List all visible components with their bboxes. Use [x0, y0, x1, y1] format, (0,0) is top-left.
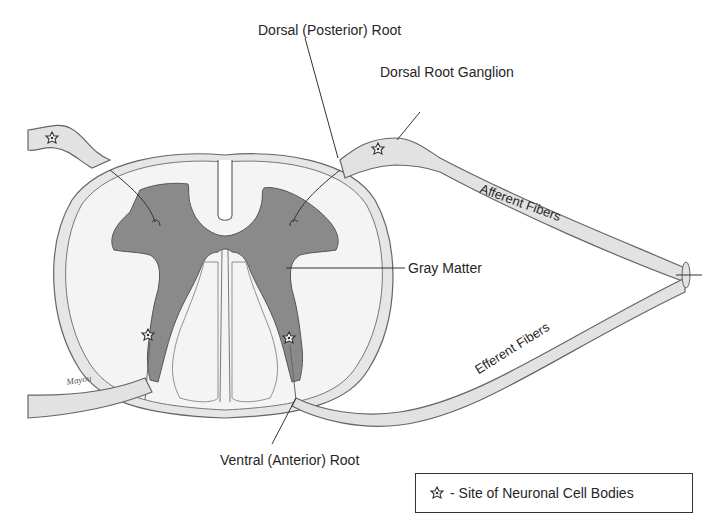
diagram-canvas: Mayou Dorsal (Posterior) Root Dorsal Roo…	[0, 0, 725, 532]
legend-text: - Site of Neuronal Cell Bodies	[450, 485, 634, 501]
label-gray-matter: Gray Matter	[408, 261, 482, 275]
spinal-cord-diagram: Mayou	[0, 0, 725, 532]
left-dorsal-nerve	[28, 125, 110, 168]
label-ventral-root: Ventral (Anterior) Root	[220, 453, 359, 467]
left-ventral-nerve	[28, 378, 152, 418]
legend-box: - Site of Neuronal Cell Bodies	[415, 473, 693, 513]
label-dorsal-root: Dorsal (Posterior) Root	[258, 23, 401, 37]
artist-signature: Mayou	[65, 373, 93, 387]
spinal-cord	[54, 154, 393, 418]
label-dorsal-root-ganglion: Dorsal Root Ganglion	[380, 65, 514, 79]
neuron-cell-body-icon	[428, 484, 446, 502]
